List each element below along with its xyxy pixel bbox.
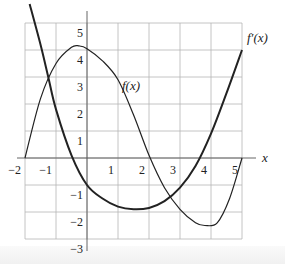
- y-tick-label: 1: [77, 134, 83, 148]
- y-tick-label: 3: [77, 80, 83, 94]
- y-tick-label: 4: [77, 53, 83, 67]
- y-tick-label: −1: [70, 188, 83, 202]
- y-tick-label: −2: [70, 215, 83, 229]
- x-tick-label: 2: [139, 163, 145, 177]
- f-curve-label: f(x): [122, 78, 140, 93]
- grid-lines: [25, 23, 242, 239]
- fprime-curve-label: f′(x): [247, 30, 268, 45]
- x-tick-label: 4: [201, 163, 207, 177]
- tick-labels: −2−11234554321−1−2−3: [8, 26, 238, 256]
- x-tick-label: 3: [170, 163, 176, 177]
- chart-plot: −2−11234554321−1−2−3 x f(x) f′(x): [0, 0, 285, 264]
- x-axis-label: x: [261, 150, 268, 165]
- x-tick-label: −2: [8, 163, 21, 177]
- x-tick-label: 1: [108, 163, 114, 177]
- x-tick-label: −1: [39, 163, 52, 177]
- y-tick-label: −3: [70, 242, 83, 256]
- fprime-curve: [30, 4, 242, 209]
- y-tick-label: 2: [77, 107, 83, 121]
- curves: [25, 4, 242, 226]
- y-tick-label: 5: [77, 26, 83, 40]
